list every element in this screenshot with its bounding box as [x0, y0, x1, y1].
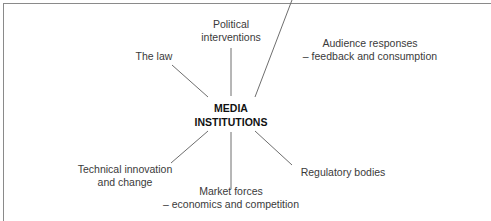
node-regulatory-line-1: Regulatory bodies: [293, 166, 393, 179]
center-line-1: MEDIA: [186, 101, 276, 115]
connector-regulatory: [255, 131, 292, 165]
node-technical-innovation: Technical innovation and change: [75, 163, 175, 189]
node-political-line-2: interventions: [191, 31, 271, 44]
node-political-interventions: Political interventions: [191, 18, 271, 44]
connector-technical: [171, 131, 208, 163]
node-political-line-1: Political: [191, 18, 271, 31]
node-law-line-1: The law: [124, 50, 184, 63]
node-the-law: The law: [124, 50, 184, 63]
node-market-forces: Market forces – economics and competitio…: [161, 185, 301, 211]
node-market-line-1: Market forces: [161, 185, 301, 198]
center-node-media-institutions: MEDIA INSTITUTIONS: [186, 101, 276, 129]
node-technical-line-2: and change: [75, 176, 175, 189]
node-audience-line-1: Audience responses: [290, 37, 450, 50]
connector-law: [172, 65, 208, 97]
node-audience-responses: Audience responses – feedback and consum…: [290, 37, 450, 63]
node-audience-line-2: – feedback and consumption: [290, 50, 450, 63]
connector-audience: [255, 0, 292, 97]
center-line-2: INSTITUTIONS: [186, 115, 276, 129]
node-market-line-2: – economics and competition: [161, 198, 301, 211]
node-technical-line-1: Technical innovation: [75, 163, 175, 176]
node-regulatory-bodies: Regulatory bodies: [293, 166, 393, 179]
